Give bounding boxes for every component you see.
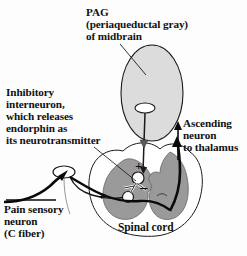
label-spinal-cord: Spinal cord <box>118 221 173 233</box>
pain-pathway-diagram: PAG (periaqueductal gray) of midbrain In… <box>0 0 247 256</box>
interneuron-process <box>64 178 70 214</box>
label-inhibitory-interneuron: Inhibitory interneuron, which releases e… <box>6 86 100 146</box>
label-ascending-neuron: Ascending neuron to thalamus <box>183 117 238 153</box>
pain-sensory-axon <box>4 176 62 202</box>
sign-inhibitory: – <box>140 180 148 195</box>
sign-sensory-excitatory: + <box>98 189 105 202</box>
sign-descending-excitatory: + <box>135 159 142 172</box>
label-pag: PAG (periaqueductal gray) of midbrain <box>86 6 188 42</box>
ascending-axon-arrowhead-icon <box>172 136 182 147</box>
pag-cell-body <box>135 103 155 113</box>
label-pain-sensory-neuron: Pain sensory neuron (C fiber) <box>4 203 63 239</box>
pag-ellipse <box>121 45 183 141</box>
